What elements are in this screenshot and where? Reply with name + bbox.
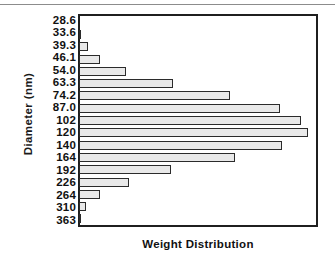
- bar: [79, 141, 282, 150]
- bar-row: [80, 164, 316, 176]
- y-tick-label: 164: [26, 152, 76, 165]
- y-tick-label: 363: [26, 215, 76, 228]
- y-tick-label: 264: [26, 189, 76, 202]
- bar: [79, 178, 129, 187]
- bar: [79, 128, 308, 137]
- bar: [79, 202, 86, 211]
- y-tick-label: 140: [26, 139, 76, 152]
- y-tick-label: 28.6: [26, 14, 76, 27]
- bar: [79, 214, 81, 223]
- bar-row: [80, 65, 316, 77]
- bar: [79, 67, 126, 76]
- bar-series: [80, 16, 316, 225]
- y-tick-label: 192: [26, 164, 76, 177]
- bar-row: [80, 176, 316, 188]
- y-tick-label: 54.0: [26, 64, 76, 77]
- y-tick-label: 74.2: [26, 89, 76, 102]
- x-axis-title: Weight Distribution: [78, 238, 318, 250]
- y-tick-label: 102: [26, 114, 76, 127]
- top-divider: [0, 4, 335, 5]
- y-axis-tick-labels: 28.6 33.6 39.3 46.1 54.0 63.3 74.2 87.0 …: [26, 14, 76, 227]
- bar: [79, 91, 230, 100]
- bar: [79, 190, 100, 199]
- plot-area: [78, 14, 318, 227]
- y-tick-label: 310: [26, 202, 76, 215]
- chart-figure: Diameter (nm) 28.6 33.6 39.3 46.1 54.0 6…: [0, 0, 335, 262]
- y-tick-label: 226: [26, 177, 76, 190]
- y-tick-label: 63.3: [26, 77, 76, 90]
- bar: [79, 116, 301, 125]
- bar: [79, 104, 280, 113]
- y-tick-label: 87.0: [26, 102, 76, 115]
- bar: [79, 55, 100, 64]
- bar: [79, 165, 171, 174]
- bar-row: [80, 114, 316, 126]
- bar-row: [80, 16, 316, 28]
- bar-row: [80, 200, 316, 212]
- y-tick-label: 46.1: [26, 52, 76, 65]
- bar: [79, 79, 173, 88]
- y-tick-label: 33.6: [26, 27, 76, 40]
- bar-row: [80, 151, 316, 163]
- bar-row: [80, 127, 316, 139]
- bar-row: [80, 28, 316, 40]
- bar-row: [80, 102, 316, 114]
- bar-row: [80, 213, 316, 225]
- bar-row: [80, 188, 316, 200]
- bar-row: [80, 139, 316, 151]
- bar: [79, 153, 235, 162]
- bar-row: [80, 77, 316, 89]
- y-tick-label: 39.3: [26, 39, 76, 52]
- bar-row: [80, 41, 316, 53]
- y-tick-label: 120: [26, 127, 76, 140]
- bar: [79, 30, 81, 39]
- bar-row: [80, 90, 316, 102]
- bar-row: [80, 53, 316, 65]
- bar: [79, 42, 88, 51]
